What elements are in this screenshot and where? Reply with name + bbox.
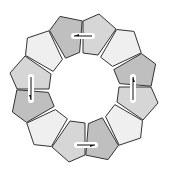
pentagon-ring-diagram bbox=[0, 0, 169, 175]
right-arrow-icon bbox=[133, 77, 135, 100]
top-arrow-icon bbox=[74, 34, 92, 36]
left-arrow-icon bbox=[29, 77, 31, 100]
bottom-arrow-icon bbox=[77, 145, 95, 147]
ring-svg bbox=[0, 0, 169, 175]
